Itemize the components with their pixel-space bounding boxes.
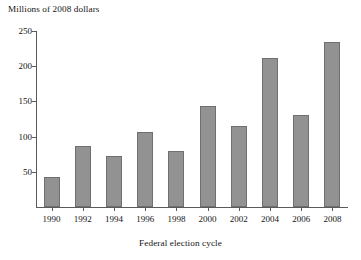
bar-2002	[231, 126, 247, 207]
x-tick-label-1998: 1998	[167, 214, 185, 224]
x-tick-mark	[52, 207, 53, 211]
x-tick-label-2004: 2004	[261, 214, 279, 224]
x-tick-label-2000: 2000	[199, 214, 217, 224]
y-tick-label: 200	[19, 61, 33, 71]
y-axis-title: Millions of 2008 dollars	[8, 4, 99, 14]
x-tick-label-2006: 2006	[292, 214, 310, 224]
y-axis-line	[36, 31, 37, 207]
y-tick-mark	[32, 137, 36, 138]
x-tick-mark	[208, 207, 209, 211]
x-tick-mark	[239, 207, 240, 211]
y-tick-label: 150	[19, 96, 33, 106]
bar-1998	[168, 151, 184, 207]
x-tick-mark	[176, 207, 177, 211]
y-tick-label: 50	[23, 167, 32, 177]
x-tick-label-2002: 2002	[230, 214, 248, 224]
bar-1992	[75, 146, 91, 207]
x-tick-mark	[332, 207, 333, 211]
x-tick-label-1996: 1996	[136, 214, 154, 224]
bar-chart-figure: Millions of 2008 dollars 50100150200250 …	[0, 0, 361, 260]
bar-2004	[262, 58, 278, 207]
bar-2000	[200, 106, 216, 207]
y-tick-label: 100	[19, 132, 33, 142]
x-tick-label-1992: 1992	[74, 214, 92, 224]
y-tick-label: 250	[19, 26, 33, 36]
plot-area: 50100150200250 1990199219941996199820002…	[36, 31, 348, 207]
x-tick-label-1994: 1994	[105, 214, 123, 224]
x-tick-label-1990: 1990	[43, 214, 61, 224]
bar-2008	[324, 42, 340, 207]
x-axis-title: Federal election cycle	[0, 238, 361, 248]
y-tick-mark	[32, 101, 36, 102]
bar-1990	[44, 177, 60, 207]
x-tick-mark	[270, 207, 271, 211]
y-tick-mark	[32, 31, 36, 32]
bar-1996	[137, 132, 153, 207]
x-tick-mark	[114, 207, 115, 211]
x-tick-mark	[83, 207, 84, 211]
y-tick-mark	[32, 172, 36, 173]
x-tick-mark	[145, 207, 146, 211]
bar-1994	[106, 156, 122, 207]
bar-2006	[293, 115, 309, 207]
x-tick-mark	[301, 207, 302, 211]
x-tick-label-2008: 2008	[323, 214, 341, 224]
y-tick-mark	[32, 66, 36, 67]
